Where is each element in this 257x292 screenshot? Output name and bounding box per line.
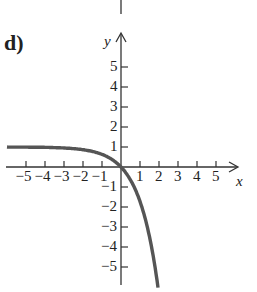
y-axis-label: y: [104, 34, 111, 49]
x-tick-label: −5: [16, 169, 32, 184]
axes: [6, 0, 238, 285]
x-tick-label: 1: [136, 169, 144, 184]
chart-plot: [0, 0, 257, 292]
x-tick-label: −3: [54, 169, 70, 184]
x-tick-label: 3: [174, 169, 182, 184]
y-tick-label: 1: [110, 139, 118, 154]
x-tick-label: −4: [35, 169, 51, 184]
y-tick-label: −2: [101, 199, 117, 214]
x-axis-label: x: [236, 174, 243, 189]
x-tick-label: 4: [193, 169, 201, 184]
y-tick-label: −4: [101, 239, 117, 254]
y-tick-label: 4: [110, 79, 118, 94]
y-tick-label: 5: [110, 59, 118, 74]
x-tick-label: 5: [212, 169, 220, 184]
x-tick-label: −2: [73, 169, 89, 184]
x-tick-label: 2: [155, 169, 163, 184]
y-tick-label: −1: [101, 179, 117, 194]
y-tick-label: −3: [101, 219, 117, 234]
y-tick-label: −5: [101, 259, 117, 274]
y-tick-label: 3: [110, 99, 118, 114]
y-tick-label: 2: [110, 119, 118, 134]
